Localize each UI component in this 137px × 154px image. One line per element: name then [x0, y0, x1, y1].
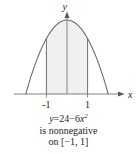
x-axis-label: x: [127, 89, 133, 100]
x-axis-arrow-icon: [118, 92, 125, 97]
caption-line-2: is nonnegative: [0, 125, 137, 137]
equation-exponent: 2: [84, 112, 88, 120]
y-axis-arrow-icon: [65, 12, 70, 19]
tick-label-pos1: 1: [85, 99, 90, 110]
tick-label-neg1: -1: [42, 99, 50, 110]
caption-line-3: on [−1, 1]: [0, 136, 137, 148]
equation-constant: 24: [59, 113, 69, 124]
y-axis-label: y: [62, 1, 68, 12]
caption-on-word: on: [49, 136, 62, 147]
caption-interval: [−1, 1]: [61, 136, 88, 147]
plot-area: y x -1 1: [0, 0, 137, 113]
figure-container: y x -1 1 y=24−6x2 is nonnegative on [−1,…: [0, 0, 137, 154]
parabola-plot: y x -1 1: [0, 0, 137, 113]
figure-caption: y=24−6x2 is nonnegative on [−1, 1]: [0, 113, 137, 148]
caption-equation-line: y=24−6x2: [0, 113, 137, 125]
